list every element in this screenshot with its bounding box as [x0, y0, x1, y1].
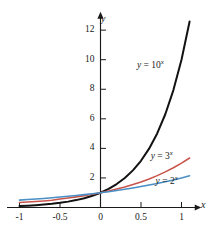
label-2: y = 2x — [156, 177, 178, 187]
label-3: y = 3x — [151, 152, 173, 162]
chart-canvas — [0, 0, 213, 227]
y-tick-label: 2 — [65, 173, 95, 183]
y-tick-label: 6 — [65, 114, 95, 124]
x-tick-label: -0.5 — [45, 213, 75, 223]
y-tick-label: 4 — [65, 143, 95, 153]
x-tick-label: 0 — [86, 213, 116, 223]
x-axis-name: x — [201, 200, 205, 210]
label-10: y = 10x — [137, 61, 164, 71]
exponential-functions-chart: 24681012-1-0.500.51y = 10xy = 3xy = 2x y… — [0, 0, 213, 227]
x-tick-label: 0.5 — [126, 213, 156, 223]
y-tick-label: 10 — [65, 55, 95, 65]
y-tick-label: 12 — [65, 25, 95, 35]
y-axis-name: y — [101, 14, 105, 24]
x-tick-label: -1 — [5, 213, 35, 223]
y-tick-label: 8 — [65, 84, 95, 94]
x-tick-label: 1 — [167, 213, 197, 223]
